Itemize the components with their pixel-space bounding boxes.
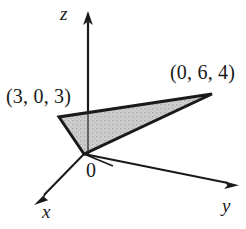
x-axis-label: x — [42, 202, 50, 221]
figure-3d-triangle: z x y 0 (3, 0, 3) (0, 6, 4) — [0, 0, 246, 229]
origin-label: 0 — [86, 160, 96, 180]
point-label-3-0-3: (3, 0, 3) — [6, 86, 71, 106]
triangle-region — [59, 94, 212, 154]
coordinate-axes-diagram — [0, 0, 246, 229]
point-label-0-6-4: (0, 6, 4) — [170, 62, 235, 82]
y-axis-arrowhead — [224, 182, 239, 190]
z-axis-label: z — [60, 4, 67, 23]
y-axis-label: y — [222, 196, 230, 215]
y-axis-line — [84, 154, 239, 189]
x-axis-line — [34, 154, 84, 205]
